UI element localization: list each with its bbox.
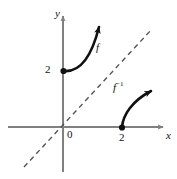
y-axis-label: y — [55, 8, 60, 19]
y-axis-tick-label-2: 2 — [45, 64, 51, 75]
curve-f-inverse — [122, 91, 151, 127]
identity-line-dashed — [24, 29, 152, 167]
point-dot-f-inverse-start — [119, 124, 125, 130]
x-axis-label: x — [166, 130, 171, 141]
curve-f — [64, 27, 99, 71]
curve-f-inverse-label: f−1 — [113, 81, 124, 93]
inverse-function-figure: y x 0 2 2 f f−1 — [0, 0, 177, 179]
curve-f-inverse-label-exponent: −1 — [116, 80, 123, 88]
figure-canvas — [0, 0, 177, 179]
origin-label: 0 — [67, 129, 73, 140]
curve-f-label: f — [96, 42, 99, 53]
point-dot-f-start — [60, 68, 66, 74]
x-axis-tick-label-2: 2 — [119, 132, 125, 143]
